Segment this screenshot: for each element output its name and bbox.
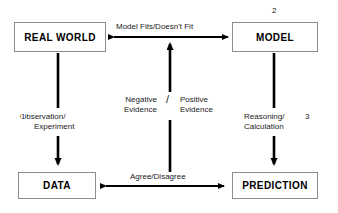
edge-label-observation-line2: Experiment bbox=[20, 122, 74, 132]
step-number-3: 3 bbox=[305, 112, 309, 121]
edge-label-model-fits: Model Fits/Doesn't Fit bbox=[116, 22, 193, 32]
edge-label-positive-line2: Evidence bbox=[180, 105, 213, 114]
diagram-canvas: REAL WORLD MODEL DATA PREDICTION Model F… bbox=[0, 0, 338, 213]
edge-label-observation-line1: Observation/ bbox=[20, 112, 65, 121]
edge-label-observation-experiment: Observation/ Experiment bbox=[20, 112, 74, 132]
node-real-world[interactable]: REAL WORLD bbox=[14, 22, 106, 52]
edge-label-negative-evidence: Negative Evidence bbox=[124, 95, 157, 115]
step-number-2: 2 bbox=[272, 6, 276, 15]
node-data[interactable]: DATA bbox=[18, 172, 96, 199]
edge-label-positive-line1: Positive bbox=[180, 95, 208, 104]
edge-label-positive-evidence: Positive Evidence bbox=[180, 95, 213, 115]
edge-label-reasoning-calculation: Reasoning/ Calculation bbox=[244, 112, 284, 132]
edge-label-evidence-separator: / bbox=[166, 94, 169, 104]
step-number-1: 1 bbox=[21, 112, 25, 121]
node-model[interactable]: MODEL bbox=[232, 22, 318, 52]
edge-label-negative-line2: Evidence bbox=[124, 105, 157, 114]
edge-label-agree-disagree: Agree/Disagree bbox=[130, 172, 186, 182]
edge-label-reasoning-line2: Calculation bbox=[244, 122, 284, 132]
edge-label-negative-line1: Negative bbox=[125, 95, 157, 104]
edge-label-reasoning-line1: Reasoning/ bbox=[244, 112, 284, 121]
node-prediction[interactable]: PREDICTION bbox=[232, 172, 318, 199]
